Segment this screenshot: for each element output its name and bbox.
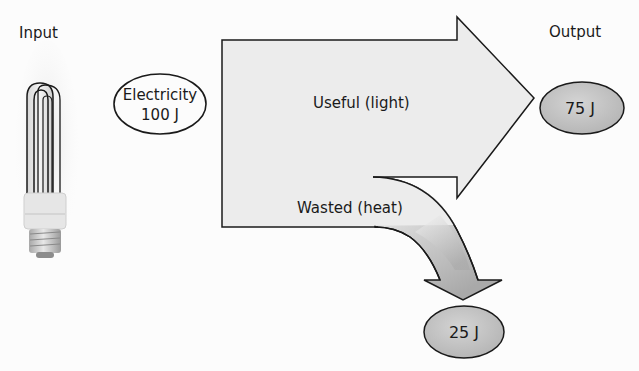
input-label: Input xyxy=(19,24,58,42)
electricity-value: 100 J xyxy=(141,106,179,124)
electricity-label: Electricity xyxy=(123,86,198,104)
electricity-input-bubble: Electricity 100 J xyxy=(114,74,206,134)
useful-light-label: Useful (light) xyxy=(313,94,410,112)
useful-output-value: 75 J xyxy=(565,99,595,118)
light-bulb-icon xyxy=(15,40,79,260)
wasted-output-value: 25 J xyxy=(449,323,479,342)
energy-transfer-diagram: Input Electricity 100 J Useful (light) W… xyxy=(0,0,639,371)
wasted-output-bubble: 25 J xyxy=(424,306,504,358)
output-label: Output xyxy=(549,23,601,41)
wasted-heat-label: Wasted (heat) xyxy=(297,199,403,217)
useful-output-bubble: 75 J xyxy=(540,82,624,134)
